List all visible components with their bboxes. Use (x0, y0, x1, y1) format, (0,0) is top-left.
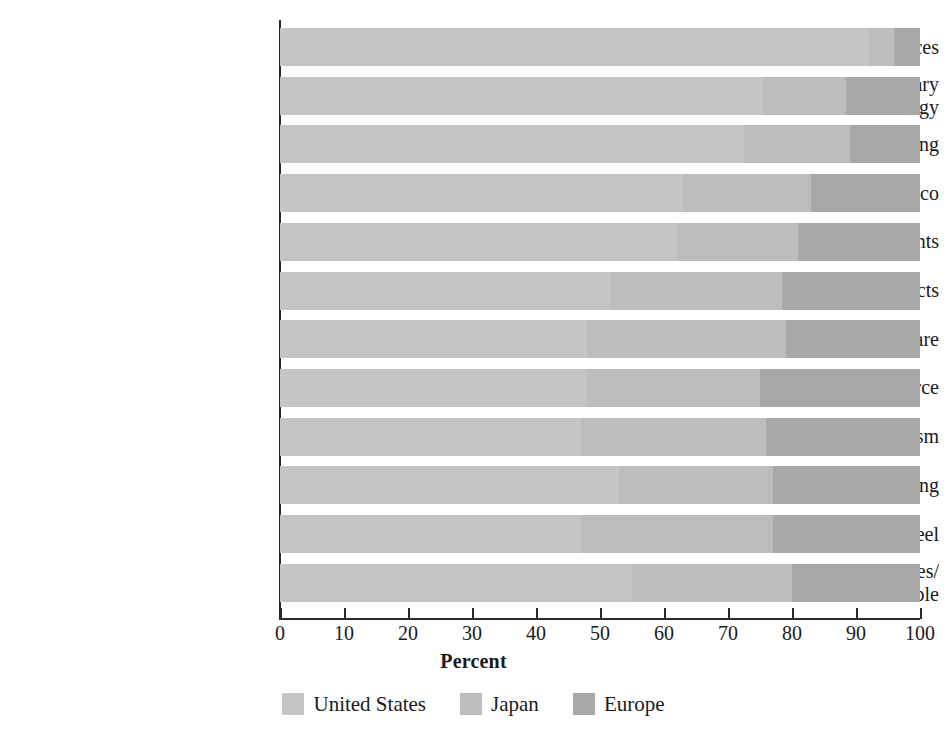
bar-segment-europe (798, 223, 920, 261)
bar-row (280, 125, 920, 163)
x-tick-label: 10 (334, 622, 354, 645)
bar-segment-europe (760, 369, 920, 407)
bar-row (280, 174, 920, 212)
x-tick (472, 608, 474, 619)
bar-segment-europe (846, 77, 920, 115)
legend-item: Japan (460, 693, 539, 715)
bar-segment-japan (581, 515, 773, 553)
bar-segment-europe (766, 418, 920, 456)
bar-segment-united-states (280, 174, 683, 212)
bar-segment-united-states (280, 28, 869, 66)
bar-row (280, 320, 920, 358)
x-tick-label: 90 (846, 622, 866, 645)
bar-segment-europe (894, 28, 920, 66)
bar-segment-united-states (280, 418, 581, 456)
x-tick (600, 608, 602, 619)
bar-segment-united-states (280, 320, 587, 358)
bar-segment-united-states (280, 125, 744, 163)
legend-swatch-icon (460, 693, 482, 715)
bar-segment-japan (632, 564, 792, 602)
bar-segment-japan (677, 223, 799, 261)
x-tick (728, 608, 730, 619)
x-tick-label: 100 (905, 622, 935, 645)
bar-segment-japan (587, 369, 760, 407)
bar-segment-japan (869, 28, 895, 66)
x-tick (920, 608, 922, 619)
bar-segment-japan (619, 466, 773, 504)
legend-item: Europe (573, 693, 665, 715)
bar-segment-europe (773, 466, 920, 504)
bar-row (280, 223, 920, 261)
legend-swatch-icon (573, 693, 595, 715)
x-tick (664, 608, 666, 619)
bar-segment-europe (782, 272, 920, 310)
x-tick (408, 608, 410, 619)
bar-segment-japan (581, 418, 767, 456)
x-axis-title: Percent (0, 650, 947, 673)
bar-segment-united-states (280, 466, 619, 504)
legend-label: Europe (604, 693, 665, 715)
x-tick (536, 608, 538, 619)
bar-segment-europe (850, 125, 920, 163)
x-tick-label: 40 (526, 622, 546, 645)
bar-row (280, 466, 920, 504)
horizontal-stacked-bar-chart: Energy Equipment/ServicesAerospace/Milit… (0, 0, 947, 745)
bar-row (280, 515, 920, 553)
x-tick-label: 20 (398, 622, 418, 645)
x-tick-label: 70 (718, 622, 738, 645)
bar-segment-japan (763, 77, 846, 115)
x-tick (280, 608, 282, 619)
legend-swatch-icon (282, 693, 304, 715)
x-tick-label: 80 (782, 622, 802, 645)
bar-segment-united-states (280, 272, 610, 310)
bar-segment-united-states (280, 223, 677, 261)
x-tick-label: 30 (462, 622, 482, 645)
x-tick (344, 608, 346, 619)
bar-segment-europe (786, 320, 920, 358)
bar-segment-japan (610, 272, 783, 310)
bar-segment-europe (792, 564, 920, 602)
x-tick-label: 0 (275, 622, 285, 645)
bar-row (280, 564, 920, 602)
x-tick-label: 60 (654, 622, 674, 645)
bar-row (280, 28, 920, 66)
legend-label: United States (313, 693, 426, 715)
legend-item: United States (282, 693, 426, 715)
bar-row (280, 369, 920, 407)
bars-plot-area (280, 26, 920, 614)
x-tick (856, 608, 858, 619)
x-tick-label: 50 (590, 622, 610, 645)
bar-segment-united-states (280, 369, 587, 407)
bar-segment-japan (587, 320, 785, 358)
bar-segment-united-states (280, 515, 581, 553)
bar-segment-united-states (280, 564, 632, 602)
bar-row (280, 418, 920, 456)
x-tick (792, 608, 794, 619)
legend-label: Japan (491, 693, 539, 715)
chart-legend: United StatesJapanEurope (0, 693, 947, 715)
bar-segment-united-states (280, 77, 763, 115)
bar-segment-europe (773, 515, 920, 553)
bar-row (280, 272, 920, 310)
bar-row (280, 77, 920, 115)
bar-segment-japan (744, 125, 850, 163)
bar-segment-japan (683, 174, 811, 212)
bar-segment-europe (811, 174, 920, 212)
